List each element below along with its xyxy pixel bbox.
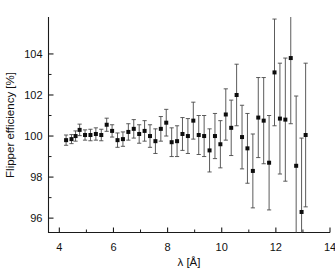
axis-tick-labels: 4681012149698100102104 — [24, 48, 335, 253]
data-marker — [126, 130, 130, 134]
data-marker — [78, 128, 82, 132]
data-point — [170, 128, 174, 157]
data-marker — [202, 134, 206, 138]
data-marker — [300, 210, 304, 214]
data-point — [73, 131, 77, 141]
data-marker — [262, 119, 266, 123]
data-marker — [153, 139, 157, 143]
x-tick-label: 10 — [216, 241, 228, 253]
data-point — [256, 78, 260, 158]
data-point — [69, 135, 73, 144]
data-marker — [191, 119, 195, 123]
data-point — [229, 100, 233, 155]
data-marker — [289, 56, 293, 60]
data-point — [175, 126, 179, 157]
data-marker — [224, 112, 228, 116]
data-point — [289, 0, 293, 124]
data-marker — [197, 133, 201, 137]
data-point — [164, 109, 168, 136]
data-point — [267, 116, 271, 210]
data-point — [224, 89, 228, 140]
data-marker — [256, 116, 260, 120]
data-point — [126, 124, 130, 140]
data-point — [202, 116, 206, 157]
data-point — [110, 125, 114, 137]
data-marker — [273, 70, 277, 74]
data-point — [299, 138, 303, 275]
data-marker — [148, 134, 152, 138]
data-point — [186, 119, 190, 154]
y-tick-label: 104 — [24, 48, 42, 60]
data-point — [235, 64, 239, 126]
data-marker — [64, 138, 68, 142]
data-marker — [116, 138, 120, 142]
data-marker — [186, 134, 190, 138]
data-marker — [240, 135, 244, 139]
data-marker — [235, 93, 239, 97]
data-marker — [94, 132, 98, 136]
x-tick-label: 6 — [110, 241, 116, 253]
data-marker — [105, 123, 109, 127]
data-marker — [175, 139, 179, 143]
data-marker — [267, 161, 271, 165]
data-point — [88, 129, 92, 140]
data-marker — [132, 127, 136, 131]
axis-ticks — [49, 54, 331, 233]
data-points-group — [64, 0, 308, 275]
data-marker — [278, 117, 282, 121]
data-point — [142, 121, 146, 142]
flipper-efficiency-chart: 4681012149698100102104 λ [Å] Flipper eff… — [0, 0, 335, 275]
data-marker — [137, 132, 141, 136]
x-tick-label: 12 — [270, 241, 282, 253]
data-point — [304, 63, 308, 207]
y-tick-label: 102 — [24, 89, 42, 101]
data-point — [278, 63, 282, 174]
data-marker — [218, 142, 222, 146]
data-point — [251, 134, 255, 208]
y-tick-label: 96 — [30, 212, 42, 224]
data-marker — [213, 134, 217, 138]
data-marker — [70, 137, 74, 141]
data-point — [99, 129, 103, 140]
data-point — [191, 102, 195, 139]
data-point — [207, 129, 211, 172]
chart-svg: 4681012149698100102104 λ [Å] Flipper eff… — [0, 0, 335, 275]
data-point — [78, 124, 82, 135]
data-marker — [283, 118, 287, 122]
data-point — [153, 129, 157, 154]
data-point — [262, 78, 266, 164]
data-marker — [251, 169, 255, 173]
data-marker — [180, 132, 184, 136]
axes-frame — [49, 17, 331, 233]
series-group — [64, 0, 308, 275]
data-marker — [170, 140, 174, 144]
data-point — [272, 19, 276, 126]
data-point — [132, 120, 136, 138]
data-point — [83, 130, 87, 140]
x-tick-label: 14 — [324, 241, 335, 253]
data-marker — [304, 133, 308, 137]
data-marker — [229, 126, 233, 130]
data-marker — [245, 146, 249, 150]
data-marker — [88, 133, 92, 137]
data-point — [137, 125, 141, 143]
data-point — [240, 105, 244, 169]
x-tick-label: 4 — [56, 241, 62, 253]
data-marker — [294, 164, 298, 168]
data-point — [218, 121, 222, 168]
data-marker — [121, 137, 125, 141]
data-point — [180, 118, 184, 151]
data-point — [213, 113, 217, 158]
data-marker — [110, 129, 114, 133]
data-marker — [164, 121, 168, 125]
data-marker — [74, 134, 78, 138]
x-tick-label: 8 — [165, 241, 171, 253]
x-axis-title: λ [Å] — [177, 256, 200, 268]
y-tick-label: 98 — [30, 171, 42, 183]
data-point — [245, 113, 249, 183]
data-marker — [83, 133, 87, 137]
data-marker — [159, 127, 163, 131]
data-point — [115, 133, 119, 147]
data-marker — [99, 133, 103, 137]
data-point — [294, 96, 298, 236]
